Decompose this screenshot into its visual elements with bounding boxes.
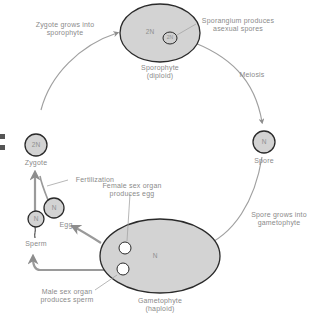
annotation-line: sporophyte <box>25 29 105 37</box>
annotation-line: gametophyte <box>244 219 314 227</box>
male-organ-annotation: Male sex organ produces sperm <box>34 288 100 304</box>
left-edge-mark <box>0 145 5 150</box>
annotation-line: produces sperm <box>34 296 100 304</box>
gametophyte-sub: (haploid) <box>128 305 192 313</box>
spore-ploidy: N <box>256 138 272 145</box>
arrow-to-sperm <box>33 258 104 270</box>
sperm-ploidy: N <box>28 215 44 222</box>
female-organ-annotation: Female sex organ produces egg <box>94 182 170 198</box>
spore-label: Spore <box>248 157 280 165</box>
arrow-meiosis <box>187 40 262 122</box>
gametophyte-label: Gametophyte (haploid) <box>128 297 192 313</box>
spore-grows-annotation: Spore grows into gametophyte <box>244 211 314 227</box>
annotation-line: Female sex organ <box>94 182 170 190</box>
annotation-line: Sporangium produces <box>196 17 280 25</box>
arrow-egg-to-zygote <box>40 176 48 200</box>
annotation-line: Zygote grows into <box>25 21 105 29</box>
egg-ploidy: N <box>46 204 62 211</box>
left-edge-mark <box>0 134 5 139</box>
sporangium-annotation: Sporangium produces asexual spores <box>196 17 280 33</box>
gametophyte-ploidy: N <box>140 252 170 259</box>
arrow-zygote-to-sporophyte <box>41 33 117 110</box>
zygote-grows-annotation: Zygote grows into sporophyte <box>25 21 105 37</box>
sporophyte-name: Sporophyte <box>130 64 190 72</box>
female-sex-organ <box>119 242 131 254</box>
gametophyte-name: Gametophyte <box>128 297 192 305</box>
annotation-line: Male sex organ <box>34 288 100 296</box>
sperm-tail <box>35 227 36 238</box>
zygote-label: Zygote <box>20 159 52 167</box>
sporophyte-ploidy: 2N <box>140 28 160 35</box>
zygote-ploidy: 2N <box>26 141 46 148</box>
egg-label: Egg <box>54 221 78 229</box>
sporangium-ploidy: 2N <box>163 34 177 40</box>
sporophyte-cell <box>120 4 200 62</box>
annotation-line: produces egg <box>94 190 170 198</box>
sperm-label: Sperm <box>20 240 52 248</box>
male-sex-organ <box>117 263 129 275</box>
arrow-to-egg <box>74 227 101 243</box>
annotation-line: asexual spores <box>196 25 280 33</box>
fertilization-pointer <box>47 180 68 186</box>
annotation-line: Spore grows into <box>244 211 314 219</box>
meiosis-annotation: Meiosis <box>232 71 272 79</box>
sporophyte-sub: (diploid) <box>130 72 190 80</box>
sporophyte-label: Sporophyte (diploid) <box>130 64 190 80</box>
